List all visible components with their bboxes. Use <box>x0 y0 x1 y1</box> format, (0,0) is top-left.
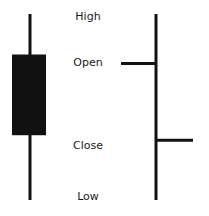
label-high: High <box>68 11 108 23</box>
candlestick-body <box>12 55 46 136</box>
candlestick-ohlc-diagram <box>0 0 209 216</box>
candlestick <box>12 14 46 200</box>
label-close: Close <box>68 140 108 152</box>
label-open: Open <box>68 57 108 69</box>
label-low: Low <box>68 191 108 203</box>
ohlc-bar <box>121 14 193 200</box>
